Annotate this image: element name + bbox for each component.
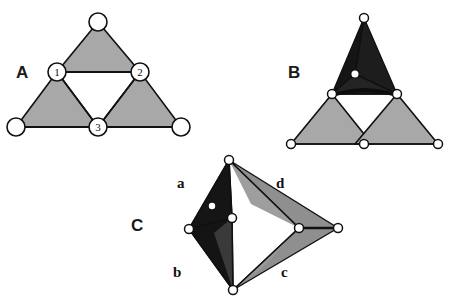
panel-c-face-label-d: d <box>276 175 285 191</box>
panel-c-node-right <box>334 224 343 233</box>
panel-b-node-bottom-right <box>434 140 443 149</box>
panel-a-node-3-label: 3 <box>95 121 101 133</box>
panel-a-letter: A <box>16 63 28 82</box>
figure-container: 1 2 3 A <box>0 0 457 306</box>
panel-c-node-center-right <box>295 224 304 233</box>
triangle-net-folding-figure: 1 2 3 A <box>0 0 457 306</box>
panel-c-face-label-a: a <box>177 175 185 191</box>
panel-a-node-apex <box>89 13 107 31</box>
panel-c-node-left <box>185 225 194 234</box>
panel-a-node-bottom-right <box>172 118 190 136</box>
panel-a-node-bottom-left <box>7 118 25 136</box>
panel-c-node-top <box>225 156 234 165</box>
panel-c-edge-center-left-to-bottom <box>232 218 233 290</box>
panel-b-node-hinge-right <box>393 90 402 99</box>
panel-b-node-bottom-left <box>287 140 296 149</box>
panel-a-node-2-label: 2 <box>137 66 143 78</box>
panel-b-letter: B <box>288 63 300 82</box>
panel-c-face-label-c: c <box>281 264 288 280</box>
panel-c-node-bottom <box>229 286 238 295</box>
panel-a-node-1-label: 1 <box>54 66 60 78</box>
panel-b-node-hinge-left <box>328 90 337 99</box>
panel-c-letter: C <box>131 216 143 235</box>
panel-c-face-label-b: b <box>173 264 181 280</box>
panel-c-node-inner-dot <box>209 203 215 209</box>
panel-b-node-bottom-center <box>360 140 369 149</box>
panel-b-node-center-pyramid <box>351 70 359 78</box>
panel-c-node-center-left <box>228 214 237 223</box>
panel-b-node-apex <box>360 14 369 23</box>
